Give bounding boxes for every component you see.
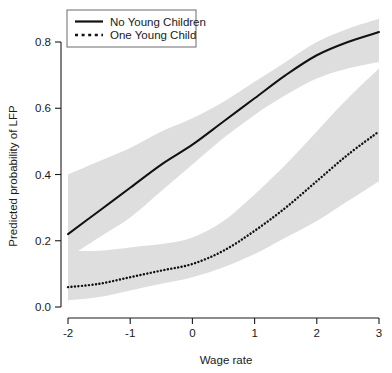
y-tick-label: 0.8 bbox=[35, 36, 51, 48]
x-tick-label: 1 bbox=[251, 327, 257, 339]
y-axis-ticks bbox=[55, 42, 61, 307]
y-axis-tick-labels: 0.00.20.40.60.8 bbox=[35, 36, 52, 313]
x-axis-title: Wage rate bbox=[200, 354, 253, 366]
x-axis: -2-10123 bbox=[63, 318, 382, 339]
chart-canvas: 0.00.20.40.60.8 -2-10123 Wage rate Predi… bbox=[0, 0, 392, 373]
x-tick-label: -2 bbox=[63, 327, 73, 339]
y-tick-label: 0.2 bbox=[35, 235, 51, 247]
legend: No Young Children One Young Child bbox=[67, 10, 206, 47]
x-tick-label: 0 bbox=[189, 327, 195, 339]
y-tick-label: 0.4 bbox=[35, 169, 52, 181]
y-axis: 0.00.20.40.60.8 bbox=[35, 36, 61, 313]
legend-label-no-young-children: No Young Children bbox=[110, 16, 206, 28]
x-axis-tick-labels: -2-10123 bbox=[63, 327, 382, 339]
legend-label-one-young-child: One Young Child bbox=[110, 29, 196, 41]
x-tick-label: 2 bbox=[314, 327, 320, 339]
x-axis-ticks bbox=[68, 318, 379, 324]
predicted-probability-line-chart: 0.00.20.40.60.8 -2-10123 Wage rate Predi… bbox=[0, 0, 392, 373]
y-axis-title: Predicted probability of LFP bbox=[7, 105, 19, 247]
y-tick-label: 0.6 bbox=[35, 102, 51, 114]
y-tick-label: 0.0 bbox=[35, 301, 51, 313]
x-tick-label: 3 bbox=[376, 327, 382, 339]
x-tick-label: -1 bbox=[125, 327, 135, 339]
